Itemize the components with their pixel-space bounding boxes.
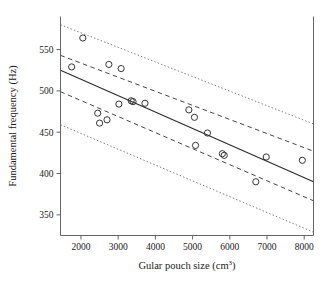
x-tick-label: 7000 xyxy=(257,242,276,252)
y-tick-label: 450 xyxy=(39,128,54,138)
x-tick-label: 4000 xyxy=(146,242,165,252)
y-tick-label: 500 xyxy=(39,86,54,96)
y-tick-label: 350 xyxy=(39,210,54,220)
prediction-band-lower xyxy=(61,125,314,232)
data-point xyxy=(118,65,124,71)
prediction-band-upper xyxy=(61,25,314,124)
data-point xyxy=(186,107,192,113)
y-axis-title: Fundamental frequency (Hz) xyxy=(7,65,19,187)
data-point xyxy=(221,152,227,158)
data-point xyxy=(96,120,102,126)
y-tick-label: 550 xyxy=(39,45,54,55)
chart-figure: 3504004505005502000300040005000600070008… xyxy=(0,0,330,288)
data-point xyxy=(192,142,198,148)
x-axis-title: Gular pouch size (cm3) xyxy=(138,259,236,272)
confidence-band-upper xyxy=(61,55,314,151)
data-point xyxy=(116,101,122,107)
confidence-band-lower xyxy=(61,92,314,201)
x-tick-label: 8000 xyxy=(295,242,314,252)
data-point xyxy=(69,64,75,70)
data-point xyxy=(95,110,101,116)
scatter-plot-svg: 3504004505005502000300040005000600070008… xyxy=(0,0,330,288)
x-tick-label: 2000 xyxy=(71,242,90,252)
plot-content xyxy=(61,25,314,232)
y-tick-label: 400 xyxy=(39,169,54,179)
data-point xyxy=(263,154,269,160)
x-tick-label: 5000 xyxy=(183,242,202,252)
x-tick-label: 3000 xyxy=(109,242,128,252)
data-point xyxy=(106,61,112,67)
data-point xyxy=(104,117,110,123)
data-point xyxy=(80,35,86,41)
data-point xyxy=(191,114,197,120)
x-tick-label: 6000 xyxy=(220,242,239,252)
data-point xyxy=(253,179,259,185)
data-point xyxy=(219,151,225,157)
data-point xyxy=(142,100,148,106)
data-point xyxy=(299,157,305,163)
